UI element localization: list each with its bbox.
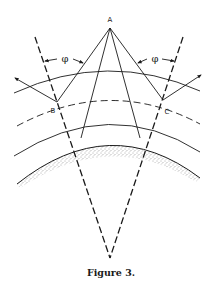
point-label-C: C: [165, 108, 170, 116]
outer-layer-arc: [14, 71, 200, 93]
figure-caption: Figure 3.: [87, 267, 135, 278]
point-label-A: A: [108, 16, 113, 24]
diagram-canvas: φ φ A B C Figure 3.: [0, 0, 212, 284]
phi-label-right: φ: [151, 53, 158, 64]
figure-3-diagram: φ φ A B C Figure 3.: [0, 0, 212, 284]
rays-from-A: [57, 28, 163, 138]
phi-marker-left: φ: [45, 53, 83, 64]
reflecting-layer-dashed-arc: [17, 100, 200, 126]
point-label-B: B: [51, 107, 56, 115]
phi-marker-right: φ: [138, 53, 174, 64]
earth-surface-band: [17, 145, 200, 188]
phi-label-left: φ: [61, 53, 68, 64]
